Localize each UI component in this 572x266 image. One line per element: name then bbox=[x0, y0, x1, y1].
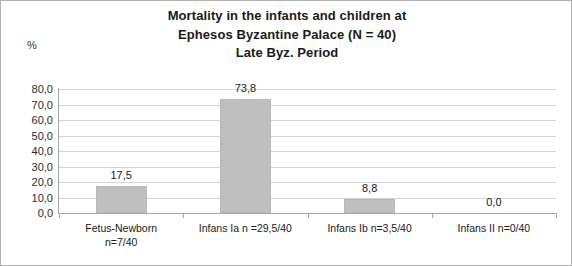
gridline bbox=[59, 182, 556, 183]
bar-value-label: 0,0 bbox=[486, 196, 501, 208]
x-axis-tick bbox=[183, 213, 184, 218]
gridline bbox=[59, 89, 556, 90]
y-axis-tick-label: 50,0 bbox=[5, 130, 53, 142]
x-axis-tick bbox=[556, 213, 557, 218]
chart-title-line-2: Ephesos Byzantine Palace (N = 40) bbox=[1, 26, 572, 45]
x-axis-category-label: Fetus-Newbornn=7/40 bbox=[59, 221, 183, 249]
y-axis-tick-labels: 80,070,060,050,040,030,020,010,00,0 bbox=[1, 89, 53, 213]
plot-area: 17,573,88,80,0 bbox=[59, 89, 556, 213]
bar[interactable] bbox=[344, 199, 395, 213]
x-axis-category-label-line: Infans Ib n=3,5/40 bbox=[308, 221, 432, 235]
x-axis-tick bbox=[308, 213, 309, 218]
y-axis-tick-label: 80,0 bbox=[5, 83, 53, 95]
y-axis-unit-label: % bbox=[19, 39, 45, 51]
y-axis-tick-label: 60,0 bbox=[5, 114, 53, 126]
x-axis-category-label-line: Infans II n=0/40 bbox=[432, 221, 556, 235]
y-axis-tick-label: 70,0 bbox=[5, 99, 53, 111]
gridline bbox=[59, 136, 556, 137]
chart-container: Mortality in the infants and children at… bbox=[0, 0, 572, 266]
bar-value-label: 73,8 bbox=[235, 82, 256, 94]
x-axis-category-label: Infans Ib n=3,5/40 bbox=[308, 221, 432, 235]
bar[interactable] bbox=[220, 99, 271, 213]
gridline bbox=[59, 120, 556, 121]
x-axis-category-label-line: n=7/40 bbox=[59, 235, 183, 249]
y-axis-tick-label: 20,0 bbox=[5, 176, 53, 188]
y-axis-tick-label: 0,0 bbox=[5, 207, 53, 219]
gridline bbox=[59, 151, 556, 152]
x-axis-category-label: Infans Ia n =29,5/40 bbox=[183, 221, 307, 235]
y-axis-tick-label: 10,0 bbox=[5, 192, 53, 204]
x-axis-tick bbox=[59, 213, 60, 218]
chart-title-line-3: Late Byz. Period bbox=[1, 44, 572, 63]
x-axis-category-labels: Fetus-Newbornn=7/40Infans Ia n =29,5/40I… bbox=[59, 213, 556, 259]
bar-value-label: 17,5 bbox=[110, 169, 131, 181]
chart-title-line-1: Mortality in the infants and children at bbox=[1, 7, 572, 26]
bar-value-label: 8,8 bbox=[362, 182, 377, 194]
x-axis-tick bbox=[432, 213, 433, 218]
x-axis-category-label-line: Infans Ia n =29,5/40 bbox=[183, 221, 307, 235]
y-axis-tick-label: 40,0 bbox=[5, 145, 53, 157]
bar[interactable] bbox=[96, 186, 147, 213]
chart-title: Mortality in the infants and children at… bbox=[1, 7, 572, 63]
y-axis-tick-label: 30,0 bbox=[5, 161, 53, 173]
x-axis-category-label-line: Fetus-Newborn bbox=[59, 221, 183, 235]
gridline bbox=[59, 105, 556, 106]
gridline bbox=[59, 167, 556, 168]
x-axis-category-label: Infans II n=0/40 bbox=[432, 221, 556, 235]
